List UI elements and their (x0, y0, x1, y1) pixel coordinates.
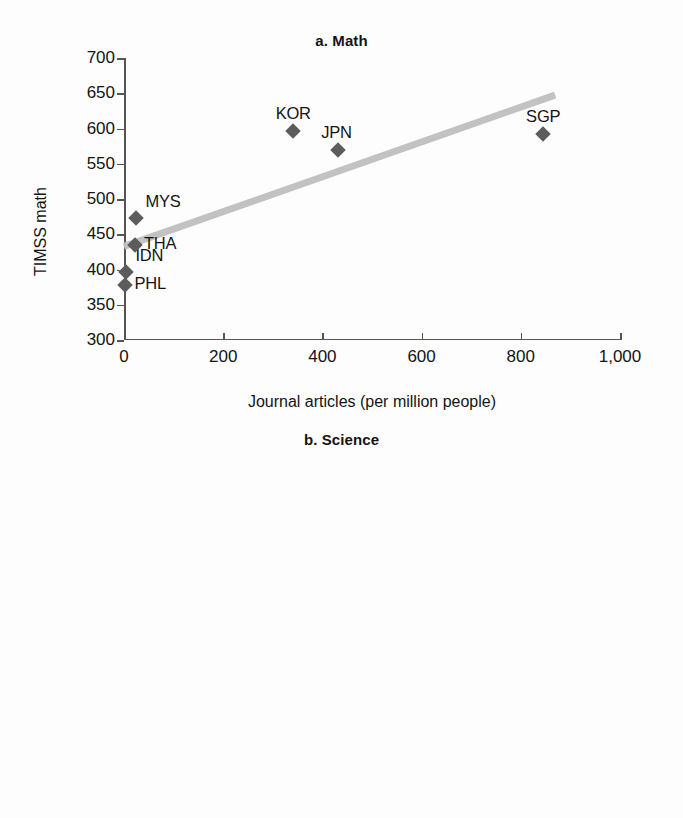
y-tick-label-600: 600 (87, 119, 115, 139)
y-tick-mark (117, 234, 124, 236)
x-tick-mark (223, 333, 225, 340)
x-tick-label-600: 600 (407, 347, 435, 367)
y-tick-mark (117, 58, 124, 60)
data-point-idn (119, 264, 135, 280)
y-tick-label-700: 700 (87, 48, 115, 68)
y-axis-title-math: TIMSS math (32, 187, 50, 276)
y-axis-line-math (124, 58, 126, 340)
y-tick-label-400: 400 (87, 260, 115, 280)
y-tick-mark (117, 129, 124, 131)
y-tick-mark (117, 305, 124, 307)
x-axis-line-math (124, 339, 620, 341)
y-tick-label-450: 450 (87, 224, 115, 244)
plot-area-math: TIMSS math Journal articles (per million… (124, 58, 620, 340)
y-tick-mark (117, 164, 124, 166)
x-tick-label-400: 400 (308, 347, 336, 367)
data-point-sgp (535, 126, 551, 142)
chart-title-math: a. Math (0, 32, 683, 49)
data-point-mys (129, 210, 145, 226)
data-point-label-mys: MYS (145, 192, 180, 211)
y-tick-label-550: 550 (87, 154, 115, 174)
y-tick-mark (117, 93, 124, 95)
data-point-label-sgp: SGP (526, 107, 560, 126)
x-tick-label-1000: 1,000 (599, 347, 642, 367)
x-tick-mark (422, 333, 424, 340)
chart-panel-science: b. Science TIMSS science Journal article… (0, 409, 683, 818)
y-tick-mark (117, 340, 124, 342)
y-tick-label-650: 650 (87, 83, 115, 103)
x-tick-label-0: 0 (119, 347, 128, 367)
x-tick-label-800: 800 (507, 347, 535, 367)
figure-container: a. Math TIMSS math Journal articles (per… (0, 0, 683, 818)
data-point-label-phl: PHL (134, 274, 166, 293)
data-point-label-jpn: JPN (321, 123, 352, 142)
x-tick-mark (620, 333, 622, 340)
y-tick-mark (117, 199, 124, 201)
data-point-label-tha: THA (144, 234, 176, 253)
chart-title-science: b. Science (0, 431, 683, 448)
data-point-label-kor: KOR (276, 104, 311, 123)
data-point-jpn (330, 142, 346, 158)
y-tick-label-350: 350 (87, 295, 115, 315)
y-tick-label-500: 500 (87, 189, 115, 209)
x-tick-mark (124, 333, 126, 340)
trendline-math (123, 91, 557, 249)
x-tick-mark (521, 333, 523, 340)
y-tick-label-300: 300 (87, 330, 115, 350)
chart-panel-math: a. Math TIMSS math Journal articles (per… (0, 0, 683, 409)
data-point-kor (285, 124, 301, 140)
x-tick-label-200: 200 (209, 347, 237, 367)
x-tick-mark (322, 333, 324, 340)
